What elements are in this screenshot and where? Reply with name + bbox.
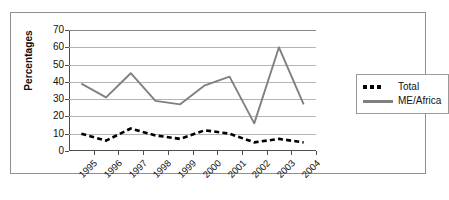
y-tick-label: 40	[53, 77, 64, 87]
x-tick-mark	[217, 151, 218, 155]
x-tick-mark	[316, 151, 317, 155]
y-tick-label: 20	[53, 111, 64, 121]
chart-figure: Percentages 010203040506070 199519961997…	[10, 12, 426, 174]
squares-icon	[363, 85, 393, 89]
x-tick-mark	[143, 151, 144, 155]
legend-label-me-africa: ME/Africa	[398, 96, 441, 106]
legend-entry-me-africa: ME/Africa	[363, 94, 441, 108]
x-tick-label: 2001	[226, 158, 248, 180]
x-tick-label: 2002	[250, 158, 272, 180]
x-tick-label: 1997	[127, 158, 149, 180]
x-tick-label: 1996	[102, 158, 124, 180]
y-tick-label: 50	[53, 60, 64, 70]
legend-entry-total: Total	[363, 80, 441, 94]
x-tick-label: 2000	[201, 158, 223, 180]
y-tick-mark	[65, 151, 69, 152]
x-tick-label: 2003	[275, 158, 297, 180]
x-tick-mark	[168, 151, 169, 155]
x-tick-label: 1995	[77, 158, 99, 180]
x-tick-mark	[291, 151, 292, 155]
x-tick-mark	[118, 151, 119, 155]
chart-legend: Total ME/Africa	[356, 74, 449, 114]
x-tick-mark	[193, 151, 194, 155]
y-tick-label: 0	[58, 146, 64, 156]
series-line-me-africa	[81, 47, 303, 123]
y-tick-label: 70	[53, 25, 64, 35]
y-tick-label: 60	[53, 42, 64, 52]
plot-area: 010203040506070 199519961997199819992000…	[69, 30, 316, 151]
x-tick-mark	[267, 151, 268, 155]
series-lines	[69, 30, 316, 151]
x-tick-label: 1999	[176, 158, 198, 180]
y-axis-title: Percentages	[23, 6, 34, 116]
x-tick-mark	[242, 151, 243, 155]
legend-label-total: Total	[398, 82, 419, 92]
y-tick-label: 10	[53, 129, 64, 139]
line-icon	[363, 100, 393, 103]
y-tick-label: 30	[53, 94, 64, 104]
x-tick-label: 1998	[151, 158, 173, 180]
x-tick-label: 2004	[300, 158, 322, 180]
series-line-total	[81, 129, 303, 143]
x-tick-mark	[94, 151, 95, 155]
